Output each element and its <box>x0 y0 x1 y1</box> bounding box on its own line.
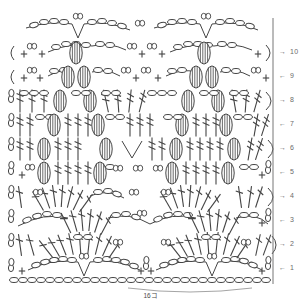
stitch-row-1 <box>8 253 271 276</box>
row-direction-arrow-4: → <box>279 192 290 199</box>
row-direction-arrow-7: ← <box>279 120 290 127</box>
row-number-9: 9 <box>290 72 294 79</box>
stitch-row-8 <box>8 89 271 113</box>
row-direction-arrow-2: → <box>279 240 290 247</box>
row-number-5: 5 <box>290 168 294 175</box>
stitch-row-10 <box>11 42 270 65</box>
row-direction-arrow-1: ← <box>279 264 290 271</box>
row-number-6: 6 <box>290 144 294 151</box>
crochet-pattern-chart: →10 ←9 →8 ←7 →6 ←5 →4 ←3 →2 ←1 16コ <box>0 0 301 303</box>
row-label-5: ←5 <box>279 168 294 175</box>
row-label-2: →2 <box>279 240 294 247</box>
row-label-8: →8 <box>279 96 294 103</box>
row-label-9: ←9 <box>279 72 294 79</box>
row-number-3: 3 <box>290 216 294 223</box>
row-label-10: →10 <box>279 48 298 55</box>
row-label-1: ←1 <box>279 264 294 271</box>
row-direction-arrow-8: → <box>279 96 290 103</box>
row-number-1: 1 <box>290 264 294 271</box>
stitch-row-2 <box>8 232 276 260</box>
stitch-row-6 <box>8 137 273 161</box>
row-number-4: 4 <box>290 192 294 199</box>
stitch-row-9 <box>11 66 269 88</box>
row-label-7: ←7 <box>279 120 294 127</box>
row-number-8: 8 <box>290 96 294 103</box>
row-direction-arrow-10: → <box>279 48 290 55</box>
stitch-row-4 <box>8 185 273 214</box>
row-number-10: 10 <box>290 48 298 55</box>
row-label-4: →4 <box>279 192 294 199</box>
stitch-row-3 <box>8 208 271 236</box>
foundation-chain-count-label: 16コ <box>0 290 301 300</box>
row-number-7: 7 <box>290 120 294 127</box>
row-direction-arrow-3: ← <box>279 216 290 223</box>
stitch-diagram <box>0 0 301 303</box>
row-number-2: 2 <box>290 240 294 247</box>
stitch-row-5 <box>8 160 271 184</box>
row-label-6: →6 <box>279 144 294 151</box>
stitch-row-top-partial <box>26 13 258 38</box>
row-label-3: ←3 <box>279 216 294 223</box>
row-direction-arrow-5: ← <box>279 168 290 175</box>
row-direction-arrow-9: ← <box>279 72 290 79</box>
row-direction-arrow-6: → <box>279 144 290 151</box>
stitch-row-7 <box>8 113 271 137</box>
